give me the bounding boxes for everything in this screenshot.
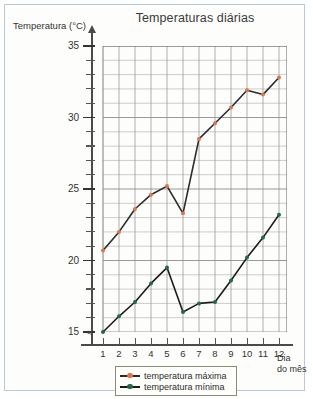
- x-tick: [135, 338, 136, 345]
- x-tick: [279, 338, 280, 345]
- legend-marker-icon: [120, 382, 140, 391]
- legend-marker-icon: [120, 371, 140, 380]
- data-point: [213, 121, 217, 125]
- legend-label: temperatura mínima: [144, 382, 225, 392]
- x-axis-line: [81, 344, 293, 346]
- x-tick-label: 3: [127, 348, 143, 359]
- data-point: [197, 137, 201, 141]
- chart-title: Temperaturas diárias: [105, 11, 285, 25]
- x-tick: [151, 338, 152, 345]
- x-tick-label: 4: [143, 348, 159, 359]
- x-axis-label-line2: do mês: [277, 364, 307, 374]
- chart-frame: Temperaturas diárias Temperatura (°C) 15…: [4, 4, 305, 391]
- y-tick-label: 25: [57, 183, 79, 194]
- data-point: [117, 314, 121, 318]
- data-point: [277, 213, 281, 217]
- series-line-1: [103, 215, 279, 332]
- data-point: [101, 249, 105, 253]
- data-point: [133, 207, 137, 211]
- y-tick-label: 35: [57, 40, 79, 51]
- data-point: [149, 193, 153, 197]
- data-point: [149, 281, 153, 285]
- x-tick-label: 10: [239, 348, 255, 359]
- data-point: [117, 230, 121, 234]
- x-tick-label: 7: [191, 348, 207, 359]
- x-axis-label: Dia do mês: [277, 353, 313, 375]
- legend-item[interactable]: temperatura mínima: [120, 381, 232, 392]
- data-point: [261, 93, 265, 97]
- x-tick-label: 6: [175, 348, 191, 359]
- data-point: [245, 88, 249, 92]
- data-point: [229, 106, 233, 110]
- data-point: [165, 184, 169, 188]
- y-tick-label: 15: [57, 326, 79, 337]
- series-line-0: [103, 78, 279, 251]
- y-tick-label: 20: [57, 255, 79, 266]
- chart-legend: temperatura máxima temperatura mínima: [115, 366, 237, 396]
- y-axis-arrow-icon: [88, 25, 96, 33]
- data-series-layer: [87, 46, 295, 332]
- data-point: [197, 301, 201, 305]
- x-tick-label: 11: [255, 348, 271, 359]
- legend-label: temperatura máxima: [144, 371, 227, 381]
- data-point: [213, 300, 217, 304]
- plot-area: [95, 46, 287, 332]
- y-axis-label: Temperatura (°C): [13, 20, 86, 31]
- data-point: [245, 256, 249, 260]
- x-axis-label-line1: Dia: [277, 353, 291, 363]
- x-tick-label: 1: [95, 348, 111, 359]
- data-point: [277, 76, 281, 80]
- x-tick: [215, 338, 216, 345]
- data-point: [133, 300, 137, 304]
- x-tick: [247, 338, 248, 345]
- x-tick-label: 9: [223, 348, 239, 359]
- data-point: [101, 330, 105, 334]
- data-point: [229, 279, 233, 283]
- y-tick-label: 30: [57, 112, 79, 123]
- x-tick: [183, 338, 184, 345]
- x-tick: [231, 338, 232, 345]
- x-tick: [167, 338, 168, 345]
- legend-item[interactable]: temperatura máxima: [120, 370, 232, 381]
- data-point: [261, 236, 265, 240]
- data-point: [181, 211, 185, 215]
- x-tick: [119, 338, 120, 345]
- x-tick-label: 5: [159, 348, 175, 359]
- data-point: [165, 266, 169, 270]
- x-tick: [199, 338, 200, 345]
- x-tick: [103, 338, 104, 345]
- data-point: [181, 310, 185, 314]
- x-tick-label: 2: [111, 348, 127, 359]
- x-tick-label: 8: [207, 348, 223, 359]
- x-tick: [263, 338, 264, 345]
